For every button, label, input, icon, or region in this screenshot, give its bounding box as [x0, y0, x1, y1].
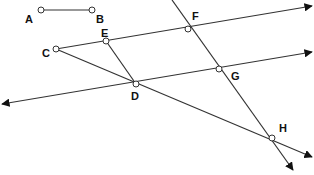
- geometry-diagram: A B C E F D G H: [0, 0, 314, 175]
- diagram-canvas: [0, 0, 314, 175]
- label-e: E: [101, 28, 108, 39]
- point-a: [38, 7, 44, 13]
- label-g: G: [231, 71, 240, 82]
- line-dg: [2, 52, 312, 104]
- point-b: [89, 7, 95, 13]
- label-c: C: [42, 48, 50, 59]
- label-d: D: [131, 91, 139, 102]
- point-c: [53, 46, 59, 52]
- point-h: [269, 135, 275, 141]
- segment-ed: [106, 41, 136, 84]
- point-d: [133, 81, 139, 87]
- point-g: [216, 66, 222, 72]
- label-a: A: [25, 14, 33, 25]
- label-b: B: [96, 14, 104, 25]
- label-f: F: [192, 11, 199, 22]
- line-fgh: [172, 0, 293, 170]
- point-f: [185, 26, 191, 32]
- label-h: H: [279, 123, 287, 134]
